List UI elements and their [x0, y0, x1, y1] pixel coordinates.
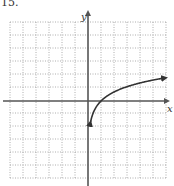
function-graph: x y	[0, 0, 174, 186]
x-axis-label: x	[167, 103, 173, 114]
y-axis-label: y	[80, 11, 87, 22]
axes	[3, 12, 168, 186]
function-curve	[91, 78, 166, 122]
